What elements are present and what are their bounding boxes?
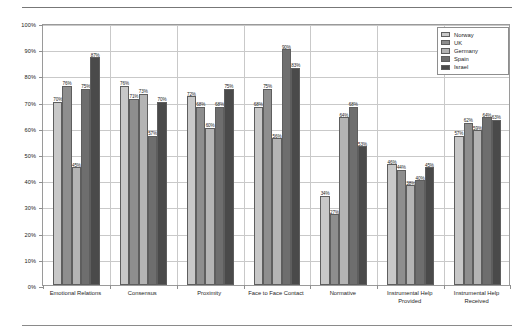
- bar[interactable]: 68%: [254, 107, 263, 285]
- bar[interactable]: 38%: [406, 185, 415, 285]
- bar-value-label: 57%: [148, 131, 157, 136]
- bar[interactable]: 90%: [282, 49, 291, 285]
- bar-value-label: 68%: [196, 102, 205, 107]
- legend-series-label: Norway: [454, 32, 474, 38]
- legend-color-swatch: [441, 56, 450, 61]
- bar-value-label: 60%: [206, 123, 215, 128]
- y-axis-tick-label: 60%: [25, 127, 37, 133]
- bar[interactable]: 70%: [157, 102, 166, 285]
- bar[interactable]: 83%: [291, 68, 300, 285]
- bar[interactable]: 59%: [473, 130, 482, 285]
- x-tick-mark: [444, 285, 445, 289]
- y-axis-tick-label: 10%: [25, 258, 37, 264]
- bar[interactable]: 44%: [397, 170, 406, 285]
- bar[interactable]: 76%: [62, 86, 71, 285]
- top-divider-rule: [22, 7, 512, 8]
- bar[interactable]: 53%: [358, 146, 367, 285]
- bar[interactable]: 45%: [425, 167, 434, 285]
- bar-group: 68%75%56%90%83%: [244, 25, 311, 285]
- bar-group: 72%68%60%68%75%: [177, 25, 244, 285]
- legend-item[interactable]: UK: [441, 39, 505, 47]
- bar-group: 70%76%45%75%87%: [43, 25, 110, 285]
- bar-value-label: 27%: [330, 210, 339, 215]
- bar-value-label: 46%: [388, 160, 397, 165]
- bar-value-label: 70%: [53, 97, 62, 102]
- legend-series-label: Germany: [454, 48, 478, 54]
- bar[interactable]: 87%: [90, 57, 99, 285]
- legend-item[interactable]: Norway: [441, 31, 505, 39]
- x-tick-mark: [177, 285, 178, 289]
- legend-item[interactable]: Israel: [441, 63, 505, 71]
- bar-value-label: 75%: [263, 84, 272, 89]
- chart-page: 0%10%20%30%40%50%60%70%80%90%100% 70%76%…: [0, 0, 532, 333]
- x-axis-category-label: Instrumental Help Received: [436, 290, 517, 305]
- y-axis-tick-label: 70%: [25, 101, 37, 107]
- bar[interactable]: 75%: [263, 89, 272, 286]
- legend-color-swatch: [441, 65, 450, 70]
- y-axis-tick-label: 80%: [25, 74, 37, 80]
- bar[interactable]: 71%: [129, 99, 138, 285]
- bar[interactable]: 62%: [464, 123, 473, 285]
- bar[interactable]: 57%: [148, 136, 157, 285]
- bar[interactable]: 63%: [492, 120, 501, 285]
- legend-series-label: Israel: [454, 64, 468, 70]
- bar-group: 76%71%73%57%70%: [110, 25, 177, 285]
- legend-series-label: Spain: [454, 56, 469, 62]
- chart-legend: NorwayUKGermanySpainIsrael: [437, 27, 509, 75]
- bar[interactable]: 57%: [454, 136, 463, 285]
- bar[interactable]: 45%: [72, 167, 81, 285]
- bar[interactable]: 64%: [482, 117, 491, 285]
- x-tick-mark: [310, 285, 311, 289]
- bar[interactable]: 46%: [387, 164, 396, 285]
- y-axis-tick-label: 90%: [25, 48, 37, 54]
- bar[interactable]: 76%: [120, 86, 129, 285]
- y-axis-tick-label: 50%: [25, 153, 37, 159]
- bar-value-label: 59%: [473, 126, 482, 131]
- bar-value-label: 63%: [492, 115, 501, 120]
- legend-color-swatch: [441, 48, 450, 53]
- legend-color-swatch: [441, 32, 450, 37]
- bar-value-label: 40%: [416, 176, 425, 181]
- bar-value-label: 38%: [406, 181, 415, 186]
- bar-value-label: 90%: [282, 45, 291, 50]
- x-tick-mark: [244, 285, 245, 289]
- bar-value-label: 76%: [120, 81, 129, 86]
- bar[interactable]: 68%: [215, 107, 224, 285]
- bar[interactable]: 56%: [272, 138, 281, 285]
- bar[interactable]: 64%: [339, 117, 348, 285]
- legend-item[interactable]: Spain: [441, 55, 505, 63]
- bar[interactable]: 72%: [187, 96, 196, 285]
- x-tick-mark: [377, 285, 378, 289]
- x-tick-mark: [110, 285, 111, 289]
- bar-value-label: 75%: [81, 84, 90, 89]
- legend-series-label: UK: [454, 40, 462, 46]
- y-axis-tick-label: 100%: [21, 22, 36, 28]
- bar-value-label: 34%: [321, 191, 330, 196]
- bar[interactable]: 75%: [224, 89, 233, 286]
- y-axis-tick-label: 20%: [25, 232, 37, 238]
- legend-item[interactable]: Germany: [441, 47, 505, 55]
- bar[interactable]: 75%: [81, 89, 90, 286]
- bar[interactable]: 40%: [415, 180, 424, 285]
- bar-value-label: 64%: [339, 113, 348, 118]
- bar[interactable]: 70%: [53, 102, 62, 285]
- legend-color-swatch: [441, 40, 450, 45]
- bar-value-label: 83%: [291, 63, 300, 68]
- bar-value-label: 70%: [158, 97, 167, 102]
- bar-value-label: 68%: [215, 102, 224, 107]
- bar-value-label: 44%: [397, 165, 406, 170]
- bar-value-label: 68%: [349, 102, 358, 107]
- bar[interactable]: 73%: [139, 94, 148, 285]
- bar-value-label: 45%: [425, 163, 434, 168]
- bar-value-label: 64%: [482, 113, 491, 118]
- bottom-divider-rule: [22, 325, 512, 326]
- bar[interactable]: 68%: [349, 107, 358, 285]
- x-tick-mark: [43, 285, 44, 289]
- bar[interactable]: 34%: [320, 196, 329, 285]
- bar-value-label: 75%: [224, 84, 233, 89]
- bar[interactable]: 27%: [330, 214, 339, 285]
- bar[interactable]: 60%: [205, 128, 214, 285]
- bar-value-label: 53%: [358, 142, 367, 147]
- bar[interactable]: 68%: [196, 107, 205, 285]
- bar-value-label: 56%: [273, 134, 282, 139]
